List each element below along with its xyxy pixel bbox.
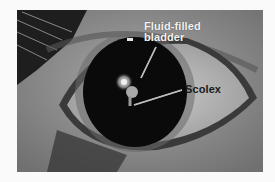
eye-photograph: Fluid-filled bladder Scolex xyxy=(17,10,263,172)
scolex xyxy=(126,86,138,98)
light-reflection xyxy=(127,38,133,41)
label-scolex: Scolex xyxy=(185,84,221,95)
bladder-highlight xyxy=(121,79,127,85)
label-fluid-filled-bladder: Fluid-filled bladder xyxy=(144,21,201,43)
label-bladder-line2: bladder xyxy=(144,32,201,43)
eye-illustration xyxy=(17,10,263,172)
